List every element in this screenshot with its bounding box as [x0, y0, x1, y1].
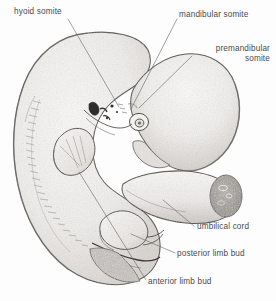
label-anterior-limb-bud: anterior limb bud	[148, 277, 212, 287]
embryo-figure: hyoid somite mandibular somite premandib…	[0, 0, 276, 301]
label-posterior-limb-bud: posterior limb bud	[177, 249, 245, 259]
label-premandibular-somite-line1: premandibular	[216, 44, 270, 53]
label-premandibular-somite-line2: somite	[245, 54, 270, 63]
optic-vesicle-icon	[130, 113, 149, 130]
label-hyoid-somite: hyoid somite	[14, 7, 62, 17]
label-umbilical-cord: umbilical cord	[197, 222, 249, 232]
label-mandibular-somite: mandibular somite	[179, 10, 248, 20]
label-premandibular-somite: premandibular somite	[194, 44, 270, 63]
